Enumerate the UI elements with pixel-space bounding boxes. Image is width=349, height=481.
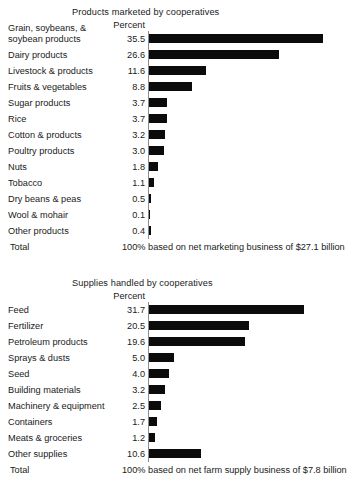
value-label: 2.5 [95, 398, 145, 414]
bar [149, 146, 164, 155]
value-label: 3.0 [95, 143, 145, 159]
bar-row: Sugar products3.7 [0, 95, 349, 111]
category-label: Livestock & products [8, 63, 93, 79]
bar-row: Other supplies10.6 [0, 446, 349, 462]
bar-row: Meats & groceries1.2 [0, 430, 349, 446]
percent-label: Percent [113, 290, 145, 302]
category-label: Sprays & dusts [8, 350, 70, 366]
category-label: Feed [8, 302, 29, 318]
bar-row: Containers1.7 [0, 414, 349, 430]
bar-row: Livestock & products11.6 [0, 63, 349, 79]
bar-row: Seed4.0 [0, 366, 349, 382]
value-label: 0.4 [95, 223, 145, 239]
bar-row: Fertilizer20.5 [0, 318, 349, 334]
bar [149, 305, 304, 314]
value-label: 3.2 [95, 382, 145, 398]
value-label: 8.8 [95, 79, 145, 95]
bar-row: Feed31.7 [0, 302, 349, 318]
value-label: 3.7 [95, 111, 145, 127]
bar [149, 66, 206, 75]
bar [149, 226, 151, 235]
value-label: 10.6 [95, 446, 145, 462]
category-label: Other supplies [8, 446, 67, 462]
category-label: Building materials [8, 382, 81, 398]
category-label: Sugar products [8, 95, 70, 111]
total-note: 100% based on net farm supply business o… [122, 462, 347, 478]
bar-row: Petroleum products19.6 [0, 334, 349, 350]
total-row: Total 100% based on net farm supply busi… [0, 462, 349, 478]
value-label: 3.2 [95, 127, 145, 143]
percent-axis-header: Percent [0, 290, 349, 302]
category-label: Other products [8, 223, 69, 239]
chart-title: Products marketed by cooperatives [0, 6, 349, 19]
bar-row: Poultry products3.0 [0, 143, 349, 159]
total-row: Total 100% based on net marketing busine… [0, 239, 349, 255]
value-label: 3.7 [95, 95, 145, 111]
total-label: Total [10, 462, 29, 478]
category-label: Petroleum products [8, 334, 88, 350]
value-label: 0.5 [95, 191, 145, 207]
bar-rows: Grain, soybeans, &soybean products35.5Da… [0, 31, 349, 239]
category-label: Seed [8, 366, 29, 382]
bar [149, 353, 174, 362]
category-label: Nuts [8, 159, 27, 175]
bar-row: Dry beans & peas0.5 [0, 191, 349, 207]
value-label: 11.6 [95, 63, 145, 79]
total-label: Total [10, 239, 29, 255]
bar [149, 401, 161, 410]
value-label: 0.1 [95, 207, 145, 223]
category-label: Rice [8, 111, 26, 127]
value-label: 31.7 [95, 302, 145, 318]
bar [149, 98, 167, 107]
bar-row: Machinery & equipment2.5 [0, 398, 349, 414]
value-label: 20.5 [95, 318, 145, 334]
bar-row: Tobacco1.1 [0, 175, 349, 191]
chart-supplies-handled: Supplies handled by cooperatives Percent… [0, 277, 349, 478]
category-label: Grain, soybeans, &soybean products [8, 23, 86, 45]
bar-row: Dairy products26.6 [0, 47, 349, 63]
chart-products-marketed: Products marketed by cooperatives Percen… [0, 6, 349, 255]
value-label: 4.0 [95, 366, 145, 382]
bar-row: Wool & mohair0.1 [0, 207, 349, 223]
chart-page: { "chart_data": [ { "type": "bar", "orie… [0, 0, 349, 481]
category-label: Dairy products [8, 47, 67, 63]
category-label: Containers [8, 414, 52, 430]
category-label: Fertilizer [8, 318, 43, 334]
bar [149, 417, 157, 426]
chart-title: Supplies handled by cooperatives [0, 277, 349, 290]
bar [149, 369, 169, 378]
bar-row: Grain, soybeans, &soybean products35.5 [0, 31, 349, 47]
value-label: 19.6 [95, 334, 145, 350]
value-label: 1.1 [95, 175, 145, 191]
bar-row: Fruits & vegetables8.8 [0, 79, 349, 95]
value-label: 35.5 [95, 31, 145, 47]
value-label: 1.7 [95, 414, 145, 430]
bar-rows: Feed31.7Fertilizer20.5Petroleum products… [0, 302, 349, 462]
value-label: 1.8 [95, 159, 145, 175]
category-label: Machinery & equipment [8, 398, 105, 414]
bar [149, 114, 167, 123]
bar-row: Nuts1.8 [0, 159, 349, 175]
category-label: Cotton & products [8, 127, 82, 143]
bar-row: Building materials3.2 [0, 382, 349, 398]
percent-label: Percent [113, 19, 145, 31]
value-label: 1.2 [95, 430, 145, 446]
bar [149, 321, 249, 330]
category-label: Fruits & vegetables [8, 79, 87, 95]
bar [149, 385, 165, 394]
bar [149, 449, 201, 458]
bar-row: Rice3.7 [0, 111, 349, 127]
category-label: Wool & mohair [8, 207, 68, 223]
bar [149, 50, 279, 59]
bar [149, 337, 245, 346]
value-label: 26.6 [95, 47, 145, 63]
category-label: Poultry products [8, 143, 74, 159]
value-label: 5.0 [95, 350, 145, 366]
bar [149, 34, 323, 43]
category-label: Dry beans & peas [8, 191, 81, 207]
bar [149, 178, 154, 187]
bar-row: Sprays & dusts5.0 [0, 350, 349, 366]
bar-row: Other products0.4 [0, 223, 349, 239]
bar [149, 433, 155, 442]
bar [149, 194, 151, 203]
